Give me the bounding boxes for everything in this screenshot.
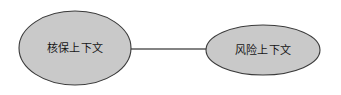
node-risk-context[interactable] <box>206 25 320 75</box>
diagram-svg <box>0 0 341 95</box>
diagram-canvas: 核保上下文 风险上下文 <box>0 0 341 95</box>
node-underwriting-context[interactable] <box>19 11 131 85</box>
